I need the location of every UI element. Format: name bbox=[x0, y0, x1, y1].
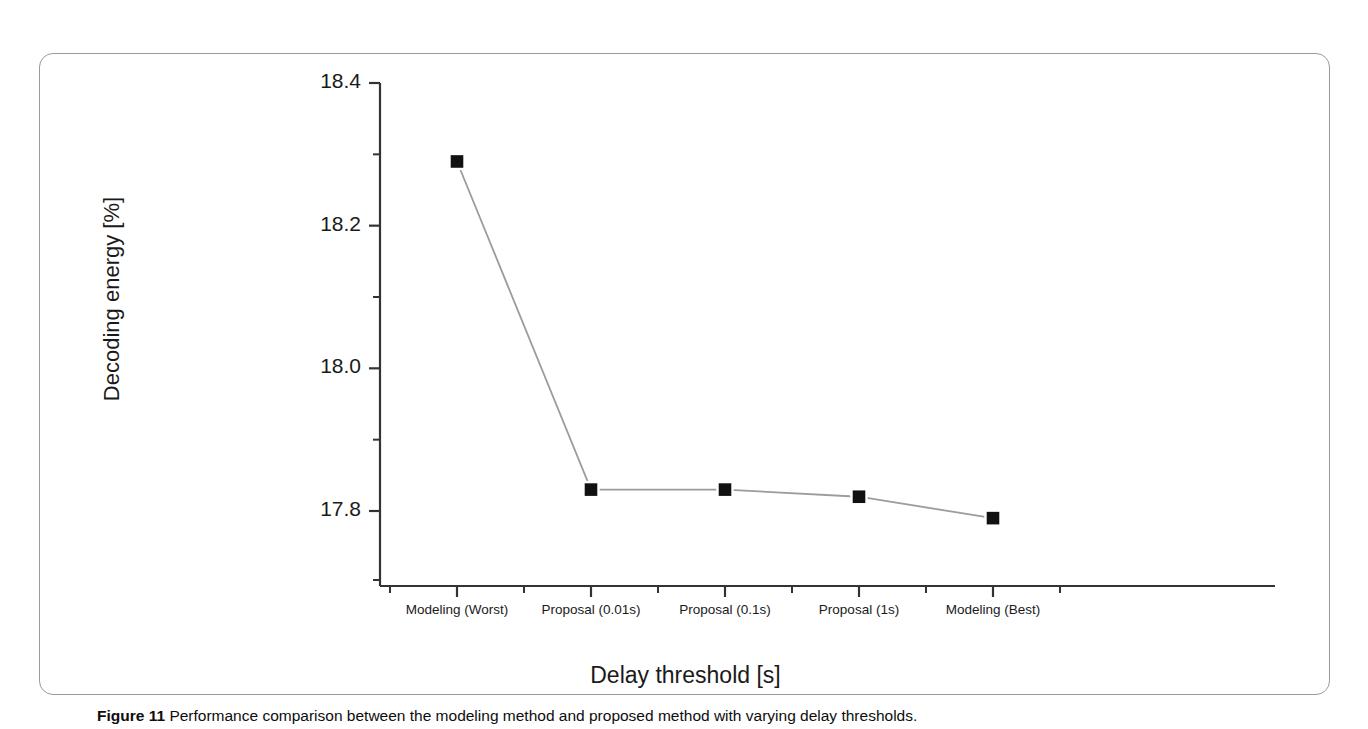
data-point-marker bbox=[852, 489, 867, 504]
figure-caption-label: Figure 11 bbox=[97, 707, 165, 724]
data-point[interactable] bbox=[852, 489, 867, 504]
figure-caption-text: Performance comparison between the model… bbox=[169, 707, 917, 724]
data-point[interactable] bbox=[718, 482, 733, 497]
chart-svg bbox=[40, 54, 1331, 624]
data-point[interactable] bbox=[584, 482, 599, 497]
figure-panel: Decoding energy [%] 18.418.218.017.8 Mod… bbox=[39, 53, 1330, 695]
data-point-marker bbox=[584, 482, 599, 497]
axes-group bbox=[369, 83, 1275, 597]
chart-plot-area: Decoding energy [%] 18.418.218.017.8 Mod… bbox=[40, 54, 1331, 624]
series-line bbox=[457, 161, 993, 518]
figure-caption: Figure 11 Performance comparison between… bbox=[97, 706, 1307, 725]
data-series-group bbox=[450, 154, 1001, 526]
data-point[interactable] bbox=[986, 511, 1001, 526]
data-point-marker bbox=[986, 511, 1001, 526]
data-point[interactable] bbox=[450, 154, 465, 169]
data-point-marker bbox=[450, 154, 465, 169]
data-point-marker bbox=[718, 482, 733, 497]
x-axis-title: Delay threshold [s] bbox=[40, 662, 1331, 689]
